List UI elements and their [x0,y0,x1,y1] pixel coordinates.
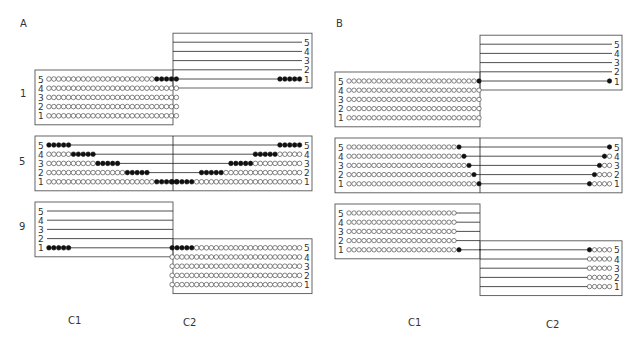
bead-open [392,163,396,167]
bead-open [297,161,302,166]
bead-open [140,180,145,185]
bead-open [209,246,214,251]
bead-open [412,211,416,215]
bead-filled [234,161,239,166]
bead-open [387,79,391,83]
c1-row-5: 5 [338,143,480,153]
bead-open [238,273,243,278]
bead-open [392,145,396,149]
bead-open [185,273,190,278]
bead-open [472,116,476,120]
bead-open [447,88,451,92]
bead-open [258,273,263,278]
bead-open [61,161,66,166]
bead-open [159,86,164,91]
bead-open [81,95,86,100]
bead-open [397,172,401,176]
bead-open [263,255,268,260]
c1-row-3: 3 [38,225,173,235]
c2-row-5: 5 [480,143,620,153]
bead-open [268,273,273,278]
c2-row-2: 2 [173,168,310,178]
c2-row-2: 2 [480,170,620,180]
bead-filled [462,154,466,158]
bead-open [234,180,239,185]
bead-open [125,77,130,82]
c1-row-2: 2 [38,234,173,244]
bead-open [587,284,591,288]
bead-open [442,163,446,167]
c2-line-number: 1 [304,280,310,290]
bead-open [457,172,461,176]
bead-open [452,145,456,149]
bead-open [209,255,214,260]
bead-open [278,264,283,269]
bead-open [372,238,376,242]
bead-open [352,211,356,215]
bead-open [402,238,406,242]
bead-open [61,104,66,109]
c2-line-number: 1 [614,282,620,292]
bead-open [263,273,268,278]
bead-open [357,145,361,149]
bead-open [214,246,219,251]
bead-open [170,264,175,269]
bead-open [362,182,366,186]
c2-row-3: 3 [480,58,620,68]
bead-open [372,88,376,92]
bead-open [377,106,381,110]
bead-open [66,161,71,166]
bead-open [467,172,471,176]
bead-open [452,88,456,92]
bead-open [120,86,125,91]
bead-open [367,145,371,149]
bead-open [387,116,391,120]
bead-filled [287,143,292,148]
bead-open [273,180,278,185]
c2-line-number: 1 [614,179,620,189]
bead-open [427,116,431,120]
bead-open [607,248,611,252]
bead-open [452,79,456,83]
bead-open [71,86,76,91]
c1-line-number: 1 [38,177,44,187]
bead-open [185,264,190,269]
bead-open [452,182,456,186]
bead-open [397,220,401,224]
bead-filled [61,246,66,251]
bead-open [432,182,436,186]
bead-filled [125,170,130,175]
c2-row-4: 4 [480,49,620,59]
bead-open [352,97,356,101]
bead-open [199,246,204,251]
bead-open [154,95,159,100]
bead-open [66,180,71,185]
bead-open [382,248,386,252]
bead-open [283,180,288,185]
bead-open [377,163,381,167]
bead-filled [91,152,96,157]
bead-open [105,95,110,100]
bead-open [377,211,381,215]
bead-open [81,161,86,166]
bead-open [199,273,204,278]
bead-open [447,211,451,215]
bead-open [189,264,194,269]
bead-open [194,246,199,251]
bead-open [180,255,185,260]
bead-open [417,145,421,149]
c1-row-3: 3 [338,95,481,105]
c2-row-3: 3 [170,262,310,272]
bead-open [273,255,278,260]
bead-open [243,273,248,278]
bead-filled [214,170,219,175]
c2-row-1: 1 [170,280,310,290]
bead-filled [278,77,283,82]
bead-open [204,264,209,269]
bead-open [135,95,140,100]
bead-open [367,211,371,215]
bead-open [417,220,421,224]
bead-filled [457,248,461,252]
bead-open [407,248,411,252]
bead-open [457,163,461,167]
